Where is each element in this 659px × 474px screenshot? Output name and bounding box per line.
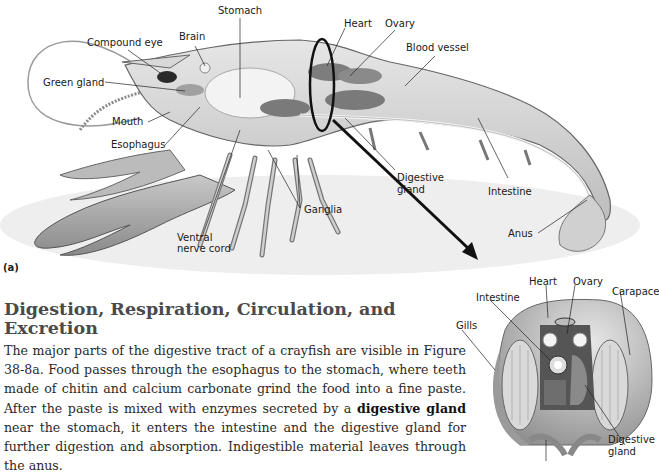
label-digestive-gland-a1: Digestive (397, 172, 444, 184)
label-intestine: Intestine (488, 186, 532, 198)
label-b-carapace: Carapace (612, 286, 659, 298)
bold-term-digestive-gland: digestive gland (357, 401, 466, 416)
label-heart: Heart (344, 18, 372, 30)
label-stomach: Stomach (218, 5, 262, 17)
label-green-gland: Green gland (43, 77, 104, 89)
label-ventral-2: nerve cord (177, 243, 231, 255)
label-compound-eye: Compound eye (87, 37, 163, 49)
label-esophagus: Esophagus (111, 139, 165, 151)
label-ovary: Ovary (385, 18, 415, 30)
label-mouth: Mouth (112, 116, 143, 128)
label-b-digestive-1: Digestive (608, 434, 655, 446)
label-b-ovary: Ovary (573, 276, 603, 288)
label-brain: Brain (179, 31, 205, 43)
figure-panel-label: (a) (3, 262, 19, 273)
section-heading: Digestion, Respiration, Circulation, and… (4, 300, 404, 338)
label-blood-vessel: Blood vessel (406, 42, 469, 54)
label-b-intestine: Intestine (476, 292, 520, 304)
label-b-heart: Heart (529, 276, 557, 288)
label-b-digestive-2: gland (608, 446, 636, 458)
paragraph-text-2: near the stomach, it enters the intestin… (4, 420, 466, 473)
label-b-gills: Gills (456, 320, 477, 332)
label-ganglia: Ganglia (304, 204, 342, 216)
label-digestive-gland-a2: gland (397, 184, 425, 196)
section-paragraph: The major parts of the digestive tract o… (4, 341, 466, 474)
label-anus: Anus (508, 228, 533, 240)
